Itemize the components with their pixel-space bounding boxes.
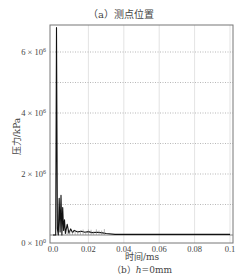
y-tick-label: 6 × 106 [21, 47, 46, 57]
figure-caption-b: （b）h=0mm [50, 263, 234, 276]
y-axis-label: 压力/kPa [10, 107, 23, 167]
y-tick-label: 4 × 106 [21, 108, 46, 118]
x-axis-label: 时间/ms [50, 250, 234, 263]
y-tick-label: 0 × 100 [21, 238, 46, 248]
y-tick-label: 2 × 106 [21, 169, 46, 179]
plot-area [50, 25, 233, 243]
pressure-time-chart: 0.00.020.040.060.080.10 × 1002 × 1064 × … [0, 0, 242, 280]
